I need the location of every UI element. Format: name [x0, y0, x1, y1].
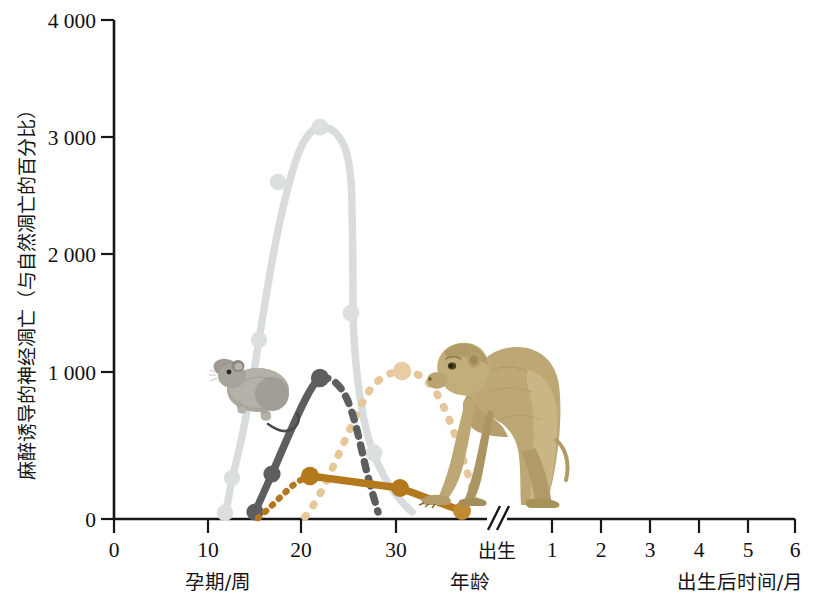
x-tick-label-month-1: 1 [547, 538, 558, 562]
data-point [270, 174, 286, 190]
y-tick-label-3000: 3 000 [48, 126, 96, 150]
data-point [263, 465, 280, 482]
x-tick-label-month-4: 4 [694, 538, 705, 562]
x-tick-label-30: 30 [385, 538, 407, 562]
data-point [366, 445, 383, 462]
data-point [393, 362, 411, 380]
data-point [343, 305, 360, 322]
x-tick-label-month-3: 3 [645, 538, 656, 562]
caption-postnatal: 出生后时间/月 [677, 571, 804, 594]
x-tick-label-birth: 出生 [478, 540, 516, 562]
y-tick-label-4000: 4 000 [48, 9, 96, 33]
x-tick-label-20: 20 [290, 538, 312, 562]
data-point [311, 118, 328, 135]
data-point [301, 467, 319, 485]
x-tick-label-month-6: 6 [790, 538, 801, 562]
y-axis-title: 麻醉诱导的神经凋亡（与自然凋亡的百分比） [16, 100, 38, 480]
y-tick-label-1000: 1 000 [48, 361, 96, 385]
caption-gestation: 孕期/周 [185, 571, 252, 594]
figure-root: 4 000 3 000 2 000 1 000 0 麻醉诱导的神经凋亡（与自然凋… [0, 0, 818, 595]
y-axis [101, 20, 114, 519]
data-point [311, 369, 329, 387]
y-tick-label-0: 0 [85, 508, 96, 532]
x-tick-labels-gestation: 0 10 20 30 [109, 538, 407, 562]
data-point [251, 332, 267, 348]
x-tick-label-month-2: 2 [596, 538, 607, 562]
x-tick-labels-postnatal: 1 2 3 4 5 6 [547, 538, 801, 562]
y-tick-label-2000: 2 000 [48, 243, 96, 267]
x-tick-label-10: 10 [197, 538, 219, 562]
series-rodent-peak-curve [217, 118, 412, 521]
data-point [391, 479, 409, 497]
x-tick-label-month-5: 5 [743, 538, 754, 562]
rat-illustration [209, 359, 299, 431]
data-point [224, 470, 240, 486]
x-tick-label-0: 0 [109, 538, 120, 562]
monkey-illustration [419, 343, 568, 508]
chart-canvas: 4 000 3 000 2 000 1 000 0 麻醉诱导的神经凋亡（与自然凋… [0, 0, 818, 595]
data-point [217, 505, 233, 521]
caption-age: 年龄 [450, 571, 490, 594]
y-tick-labels: 4 000 3 000 2 000 1 000 0 [48, 9, 96, 532]
